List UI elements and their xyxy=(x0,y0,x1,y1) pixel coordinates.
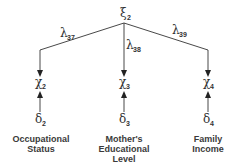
svg-text:38: 38 xyxy=(133,46,141,53)
svg-text:Status: Status xyxy=(27,144,55,154)
indicator-x4: χ 4 xyxy=(203,75,214,90)
svg-text:4: 4 xyxy=(210,120,214,127)
indicator-x3: χ 3 xyxy=(119,75,130,90)
svg-text:Level: Level xyxy=(112,154,135,164)
svg-text:Income: Income xyxy=(192,144,224,154)
arrowheads-up xyxy=(37,91,211,98)
svg-text:Occupational: Occupational xyxy=(12,134,69,144)
svg-text:Mother's: Mother's xyxy=(105,134,142,144)
svg-text:2: 2 xyxy=(42,120,46,127)
latent-variable-xi2: ξ 2 xyxy=(120,6,131,21)
arrowhead-icon xyxy=(205,91,211,98)
svg-text:37: 37 xyxy=(67,34,75,41)
svg-text:4: 4 xyxy=(210,83,214,90)
path-left xyxy=(40,23,124,74)
lambda-37: λ 37 xyxy=(60,26,75,41)
indicator-x2: χ 2 xyxy=(35,75,46,90)
latent-subscript: 2 xyxy=(127,14,131,21)
arrowhead-icon xyxy=(37,91,43,98)
lambda-39: λ 39 xyxy=(172,23,187,38)
error-delta2: δ 2 xyxy=(35,112,46,127)
lambda-38: λ 38 xyxy=(126,38,141,53)
svg-text:3: 3 xyxy=(126,120,130,127)
label-mothers-educational-level: Mother's Educational Level xyxy=(98,134,149,164)
svg-text:2: 2 xyxy=(42,83,46,90)
svg-text:Educational: Educational xyxy=(98,144,149,154)
label-occupational-status: Occupational Status xyxy=(12,134,69,154)
label-family-income: Family Income xyxy=(192,134,224,154)
svg-text:3: 3 xyxy=(126,83,130,90)
latent-symbol: ξ xyxy=(120,6,127,20)
svg-text:Family: Family xyxy=(194,134,223,144)
error-delta3: δ 3 xyxy=(119,112,130,127)
svg-text:39: 39 xyxy=(179,31,187,38)
arrowhead-icon xyxy=(121,91,127,98)
path-diagram: ξ 2 λ 37 λ 38 λ 39 χ 2 χ 3 χ 4 xyxy=(0,0,238,166)
error-delta4: δ 4 xyxy=(203,112,214,127)
